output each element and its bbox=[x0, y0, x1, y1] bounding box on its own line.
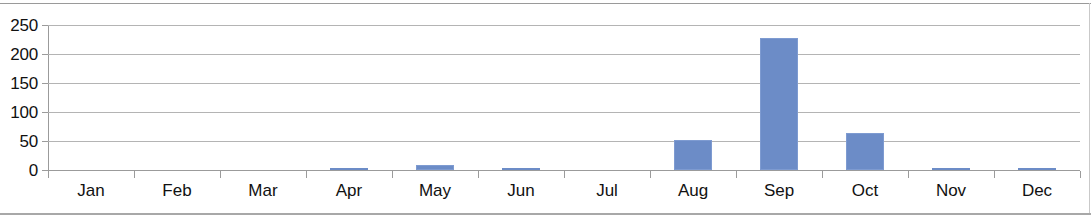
chart-frame-right-border bbox=[1089, 3, 1090, 213]
bar-dec bbox=[1018, 168, 1056, 170]
x-axis-label-apr: Apr bbox=[306, 182, 392, 199]
x-axis-tick bbox=[564, 171, 565, 178]
bar-chart: 050100150200250 JanFebMarAprMayJunJulAug… bbox=[0, 0, 1091, 222]
x-axis-tick bbox=[736, 171, 737, 178]
x-axis-tick bbox=[650, 171, 651, 178]
x-axis-label-may: May bbox=[392, 182, 478, 199]
bar-nov bbox=[932, 168, 970, 170]
x-axis-labels: JanFebMarAprMayJunJulAugSepOctNovDec bbox=[48, 182, 1080, 206]
chart-frame-bottom-border bbox=[0, 213, 1091, 215]
x-axis-tick bbox=[306, 171, 307, 178]
y-axis-label: 50 bbox=[0, 133, 38, 150]
x-axis-tick bbox=[908, 171, 909, 178]
x-axis-label-jun: Jun bbox=[478, 182, 564, 199]
x-axis-label-oct: Oct bbox=[822, 182, 908, 199]
bar-aug bbox=[674, 140, 712, 170]
x-axis-tick bbox=[822, 171, 823, 178]
x-axis-tick bbox=[1080, 171, 1081, 178]
bar-series bbox=[48, 25, 1080, 170]
bar-sep bbox=[760, 38, 798, 170]
plot-area bbox=[48, 25, 1080, 170]
x-axis-label-jul: Jul bbox=[564, 182, 650, 199]
x-axis-label-feb: Feb bbox=[134, 182, 220, 199]
x-axis-tick bbox=[220, 171, 221, 178]
x-axis-label-sep: Sep bbox=[736, 182, 822, 199]
x-axis-label-aug: Aug bbox=[650, 182, 736, 199]
y-axis-label: 200 bbox=[0, 46, 38, 63]
x-axis-label-jan: Jan bbox=[48, 182, 134, 199]
x-axis-tick bbox=[134, 171, 135, 178]
y-axis-label: 150 bbox=[0, 75, 38, 92]
x-axis-tick bbox=[48, 171, 49, 178]
x-axis-tick bbox=[994, 171, 995, 178]
y-axis-label: 250 bbox=[0, 17, 38, 34]
y-axis-label: 100 bbox=[0, 104, 38, 121]
x-axis-tick bbox=[392, 171, 393, 178]
x-axis-label-nov: Nov bbox=[908, 182, 994, 199]
x-axis-label-mar: Mar bbox=[220, 182, 306, 199]
bar-apr bbox=[330, 168, 368, 170]
x-axis-tick bbox=[478, 171, 479, 178]
chart-frame-top-border bbox=[0, 3, 1091, 4]
x-axis-label-dec: Dec bbox=[994, 182, 1080, 199]
bar-jun bbox=[502, 168, 540, 170]
bar-oct bbox=[846, 133, 884, 170]
y-axis-label: 0 bbox=[0, 162, 38, 179]
bar-may bbox=[416, 165, 454, 170]
